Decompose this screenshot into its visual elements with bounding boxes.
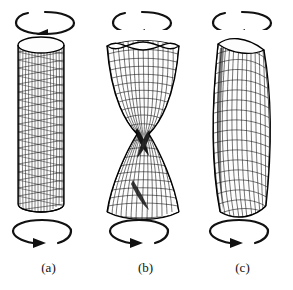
- panel-caption-b: (b): [97, 260, 194, 276]
- panel-caption-c: (c): [194, 260, 291, 276]
- cylinder-body: [0, 35, 97, 216]
- figure-panel-a: (a): [0, 0, 97, 290]
- hourglass-body: [97, 30, 194, 230]
- rotation-arrow-top: [16, 12, 74, 39]
- figure-panel-b: (b): [97, 0, 194, 290]
- panel-caption-a: (a): [0, 260, 97, 276]
- bent-column-body: [194, 30, 293, 230]
- rotation-arrow-bottom: [13, 220, 71, 248]
- panel-c-drawing: [194, 0, 293, 290]
- panel-a-drawing: [0, 0, 97, 290]
- figure-panel-c: (c): [194, 0, 291, 290]
- figure-canvas: (a): [0, 0, 293, 290]
- panel-b-drawing: [97, 0, 194, 290]
